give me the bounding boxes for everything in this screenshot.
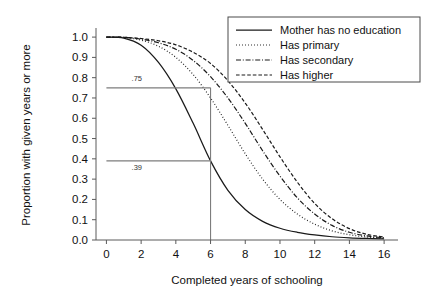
y-tick-label-8: 0.8 — [72, 72, 88, 84]
reference-value-label-1: .39 — [132, 163, 142, 172]
x-axis-title: Completed years of schooling — [171, 274, 323, 286]
x-tick-label-0: 0 — [103, 248, 109, 260]
y-tick-label-1: 0.1 — [72, 214, 88, 226]
legend-label-0: Mother has no education — [280, 24, 401, 36]
annotations-group: .75.39 — [106, 74, 210, 240]
x-tick-label-1: 2 — [138, 248, 144, 260]
x-tick-label-8: 16 — [378, 248, 391, 260]
y-tick-label-7: 0.7 — [72, 92, 88, 104]
chart-legend: Mother has no educationHas primaryHas se… — [228, 17, 420, 82]
y-tick-label-2: 0.2 — [72, 193, 88, 205]
legend-label-2: Has secondary — [280, 54, 354, 66]
chart-container: .75.39 02468101214160.00.10.20.30.40.50.… — [0, 0, 440, 303]
reference-value-label-0: .75 — [132, 74, 142, 83]
y-tick-label-0: 0.0 — [72, 234, 88, 246]
y-tick-label-3: 0.3 — [72, 173, 88, 185]
y-tick-label-9: 0.9 — [72, 51, 88, 63]
x-tick-label-5: 10 — [274, 248, 287, 260]
y-tick-label-5: 0.5 — [72, 133, 88, 145]
x-tick-label-3: 6 — [207, 248, 213, 260]
legend-label-3: Has higher — [280, 69, 334, 81]
x-tick-label-2: 4 — [173, 248, 180, 260]
y-tick-label-10: 1.0 — [72, 31, 88, 43]
education-schooling-survival-chart: .75.39 02468101214160.00.10.20.30.40.50.… — [0, 0, 440, 303]
x-tick-label-7: 14 — [343, 248, 356, 260]
y-tick-label-6: 0.6 — [72, 112, 88, 124]
legend-label-1: Has primary — [280, 39, 340, 51]
plot-area: .75.39 02468101214160.00.10.20.30.40.50.… — [72, 17, 420, 260]
x-tick-label-6: 12 — [308, 248, 321, 260]
y-tick-label-4: 0.4 — [72, 153, 89, 165]
y-axis-title: Proportion with given years or more — [20, 44, 32, 226]
x-tick-label-4: 8 — [242, 248, 248, 260]
